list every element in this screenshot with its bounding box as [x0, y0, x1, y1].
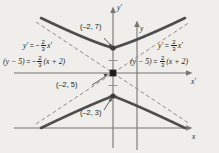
eq-rhs: (x + 2)	[166, 57, 188, 66]
eq-minus-sign: −	[35, 41, 39, 50]
eq-lhs: y'	[23, 41, 28, 50]
eq-lhs: (y − 5)	[3, 57, 25, 66]
hyperbola-figure	[0, 0, 219, 153]
point-lower-vertex	[110, 93, 115, 98]
fraction-two-thirds: 2 3	[160, 55, 165, 68]
fraction-denominator: 3	[41, 45, 46, 52]
label-upper-vertex: (–2, 7)	[80, 22, 101, 31]
label-center: (–2, 5)	[56, 80, 77, 89]
fraction-denominator: 3	[171, 45, 176, 52]
eq-sign-equals: =	[165, 41, 169, 50]
fraction-denominator: 3	[37, 61, 42, 68]
fraction-two-thirds: 2 3	[171, 39, 176, 52]
y-prime-axis-label: y'	[117, 3, 122, 12]
eq-lhs: y'	[158, 41, 163, 50]
equation-left-asymptote-xy: (y − 5) = − 2 3 (x + 2)	[3, 55, 65, 68]
label-lower-vertex: (–2, 3)	[80, 108, 101, 117]
fraction-two-thirds: 2 3	[41, 39, 46, 52]
y-axis-label: y	[140, 24, 143, 33]
y-prime-axis	[110, 7, 116, 149]
eq-minus-sign: −	[32, 57, 36, 66]
eq-sign-equals: =	[153, 57, 157, 66]
eq-sign-equals: =	[30, 41, 34, 50]
point-center	[110, 70, 117, 77]
fraction-denominator: 3	[160, 61, 165, 68]
eq-lhs: (y − 5)	[130, 57, 152, 66]
eq-sign-equals: =	[26, 57, 30, 66]
x-axis-label: x	[192, 132, 195, 141]
equation-right-asymptote-prime: y' = 2 3 x'	[158, 39, 183, 52]
x-prime-axis-label: x'	[191, 77, 196, 86]
fraction-two-thirds: 2 3	[37, 55, 42, 68]
eq-rhs: x'	[178, 41, 183, 50]
eq-rhs: x'	[47, 41, 52, 50]
x-prime-axis	[14, 70, 193, 76]
equation-left-asymptote-prime: y' = − 2 3 x'	[23, 39, 52, 52]
equation-right-asymptote-xy: (y − 5) = 2 3 (x + 2)	[130, 55, 188, 68]
eq-rhs: (x + 2)	[43, 57, 65, 66]
